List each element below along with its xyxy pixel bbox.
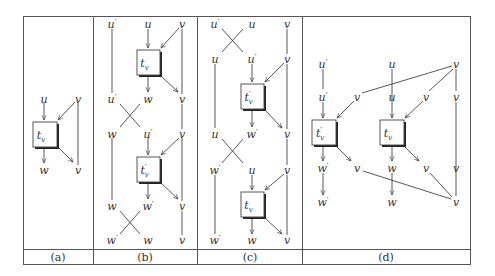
node-label-u: u: [40, 93, 47, 106]
transition-box: t′v: [241, 84, 266, 111]
box-subscript: v: [320, 134, 324, 142]
node-label-w: w′: [106, 233, 117, 247]
node-label-w: w′: [317, 161, 328, 175]
arrow-edge: [161, 138, 179, 155]
panel-captions: (a)(b)(c)(d): [50, 251, 393, 264]
prime-mark: ′: [151, 127, 153, 136]
node-label-u: u′: [319, 57, 328, 71]
caption-d: (d): [378, 251, 394, 264]
node-label-v: v: [179, 200, 186, 213]
arrow-edge: [265, 63, 284, 82]
caption-b: (b): [137, 251, 153, 264]
prime-mark: ′: [320, 125, 322, 134]
prime-mark: ′: [249, 89, 251, 98]
node-label-u: u′: [108, 92, 117, 106]
box-subscript: v: [145, 64, 149, 72]
node-label-v: v: [284, 128, 291, 141]
node-label-w: w′: [317, 195, 328, 209]
prime-mark: ′: [255, 52, 257, 61]
node-label-v: v: [453, 91, 460, 104]
node-label-u: u: [388, 91, 395, 104]
node-label-u: u: [248, 164, 255, 177]
arrow-edge: [265, 218, 282, 234]
box-subscript: v: [41, 136, 45, 144]
node-label-w: w: [39, 164, 49, 177]
prime-mark: ′: [152, 199, 154, 208]
prime-mark: ′: [327, 161, 329, 170]
node-label-v: v: [179, 128, 186, 141]
transition-box: t′v: [312, 120, 338, 147]
node-label-w: w′: [142, 199, 153, 213]
node-label-v: v: [453, 162, 460, 175]
node-label-v: v: [423, 91, 430, 104]
prime-mark: ′: [326, 57, 328, 66]
node-label-v: v: [284, 234, 291, 247]
transition-box: tv: [137, 50, 162, 77]
arrow-edge: [265, 174, 284, 190]
node-label-w: w: [107, 128, 117, 141]
node-label-v: v: [284, 53, 291, 66]
box-subscript: v: [249, 206, 253, 214]
node-label-v: v: [284, 164, 291, 177]
node-label-w: w: [247, 234, 257, 247]
arrow-edge: [265, 110, 282, 128]
node-label-v: v: [284, 18, 291, 31]
prime-mark: ′: [326, 90, 328, 99]
arrow-edge: [161, 76, 178, 92]
node-label-u: u: [248, 18, 255, 31]
prime-mark: ′: [145, 162, 147, 171]
caption-a: (a): [50, 251, 65, 264]
node-label-v: v: [179, 93, 186, 106]
prime-mark: ′: [218, 17, 220, 26]
prime-mark: ′: [115, 17, 117, 26]
edge-line: [363, 171, 451, 199]
caption-c: (c): [243, 251, 258, 264]
edge-line: [362, 66, 452, 93]
arrow-edge: [337, 101, 354, 118]
node-label-u: u′: [108, 17, 117, 31]
arrow-edge: [161, 183, 178, 199]
node-label-v: v: [354, 162, 361, 175]
node-label-w: w: [387, 196, 397, 209]
node-label-w: w′: [209, 163, 220, 177]
node-label-v: v: [75, 164, 82, 177]
node-label-v: v: [423, 162, 430, 175]
box-subscript: v: [249, 98, 253, 106]
node-label-u: u: [388, 58, 395, 71]
node-label-v: v: [354, 91, 361, 104]
prime-mark: ′: [115, 92, 117, 101]
node-label-u: u: [211, 53, 218, 66]
arrow-edge: [161, 28, 179, 48]
node-label-u: u′: [248, 52, 257, 66]
transition-box: tv: [380, 120, 406, 147]
box-subscript: v: [145, 171, 149, 179]
node-label-v: v: [179, 234, 186, 247]
transition-box: t′v: [137, 157, 162, 184]
prime-mark: ′: [219, 233, 221, 242]
node-label-v: v: [179, 18, 186, 31]
node-label-v: v: [453, 58, 460, 71]
arrow-edge: [58, 147, 73, 162]
node-label-u: u′: [144, 127, 153, 141]
prime-mark: ′: [116, 233, 118, 242]
node-label-u: u′: [319, 90, 328, 104]
node-label-v: v: [75, 93, 82, 106]
node-label-u: u: [211, 128, 218, 141]
arrow-edge: [58, 102, 75, 120]
figure-diagram: tvtvt′vt′vtvt′vtv uvwvu′uvu′wvwu′vww′vw′…: [0, 0, 495, 276]
prime-mark: ′: [219, 163, 221, 172]
node-label-u: u′: [211, 17, 220, 31]
prime-mark: ′: [256, 127, 258, 136]
prime-mark: ′: [327, 195, 329, 204]
arrow-edge: [336, 146, 351, 161]
node-label-w: w: [387, 162, 397, 175]
node-label-v: v: [453, 196, 460, 209]
transition-box: tv: [33, 122, 59, 149]
node-label-w: w: [107, 200, 117, 213]
arrow-edge: [404, 146, 419, 161]
boxes: tvtvt′vt′vtvt′vtv: [33, 50, 406, 219]
node-label-w: w: [143, 234, 153, 247]
node-label-u: u: [144, 18, 151, 31]
node-label-w: w′: [246, 127, 257, 141]
node-label-w: w: [143, 93, 153, 106]
